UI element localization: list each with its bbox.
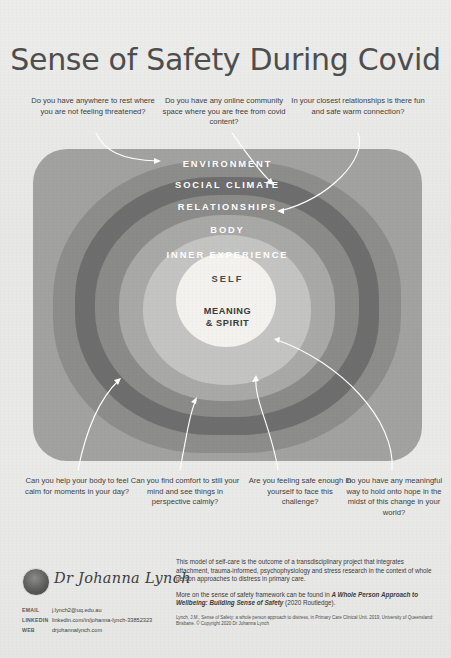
ring-label-meaning-spirit: MEANING & SPIRIT (33, 305, 422, 329)
ring-label-body: BODY (33, 225, 422, 235)
footer: Dr Johanna Lynch EMAILj.lynch2@uq.edu.au… (0, 556, 451, 642)
contact-label-email: EMAIL (22, 607, 52, 613)
footer-paragraph-1: This model of self-care is the outcome o… (176, 558, 434, 584)
contact-value-web[interactable]: drjohannalynch.com (52, 627, 102, 633)
question-inner-experience: Can you find comfort to still your mind … (130, 476, 240, 508)
footer-paragraph-2-post: (2020 Routledge). (283, 599, 335, 606)
contact-value-linkedin[interactable]: linkedin.com/in/johanna-lynch-33852323 (52, 617, 152, 623)
poster-canvas: Sense of Safety During Covid Do you have… (0, 0, 451, 658)
question-body: Can you help your body to feel calm for … (22, 476, 132, 497)
ring-label-inner-experience: INNER EXPERIENCE (33, 250, 422, 260)
question-self: Are you feeling safe enough in yourself … (248, 476, 352, 508)
contact-row-linkedin: LINKEDINlinkedin.com/in/johanna-lynch-33… (22, 617, 152, 623)
core-label-line-2: & SPIRIT (206, 318, 250, 328)
question-social-climate: Do you have any online community space w… (160, 96, 288, 128)
question-meaning-spirit: Do you have any meaningful way to hold o… (342, 476, 446, 518)
contact-label-web: WEB (22, 627, 52, 633)
ring-label-self: SELF (33, 274, 422, 284)
footer-description-block: This model of self-care is the outcome o… (176, 558, 434, 627)
ring-label-relationships: RELATIONSHIPS (33, 202, 422, 212)
question-environment: Do you have anywhere to rest where you a… (26, 96, 160, 117)
footer-paragraph-2-pre: More on the sense of safety framework ca… (176, 591, 331, 598)
footer-paragraph-2: More on the sense of safety framework ca… (176, 591, 434, 608)
contact-label-linkedin: LINKEDIN (22, 617, 52, 623)
question-relationships: In your closest relationships is there f… (288, 96, 428, 117)
avatar (22, 568, 50, 596)
contact-row-email: EMAILj.lynch2@uq.edu.au (22, 607, 102, 613)
contact-value-email[interactable]: j.lynch2@uq.edu.au (52, 607, 102, 613)
page-title: Sense of Safety During Covid (0, 42, 451, 77)
ring-label-environment: ENVIRONMENT (33, 159, 422, 169)
sense-of-safety-diagram: ENVIRONMENT SOCIAL CLIMATE RELATIONSHIPS… (33, 143, 422, 467)
contact-row-web: WEBdrjohannalynch.com (22, 627, 102, 633)
footer-citation: Lynch, J.M., Sense of Safety: a whole pe… (176, 615, 434, 627)
ring-label-social-climate: SOCIAL CLIMATE (33, 180, 422, 190)
ring-meaning-spirit (176, 253, 276, 347)
core-label-line-1: MEANING (204, 306, 252, 316)
author-signature: Dr Johanna Lynch (54, 570, 191, 586)
